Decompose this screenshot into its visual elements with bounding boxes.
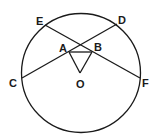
label-f: F xyxy=(142,77,149,89)
line-cd xyxy=(22,24,117,78)
geometry-diagram: E D C F A B O xyxy=(0,0,154,140)
label-a: A xyxy=(59,42,67,54)
segment-oa xyxy=(69,52,80,73)
label-b: B xyxy=(94,41,102,53)
label-o: O xyxy=(76,78,85,90)
label-e: E xyxy=(36,15,43,27)
segment-ob xyxy=(80,52,92,73)
label-c: C xyxy=(9,77,17,89)
circle xyxy=(22,14,141,133)
label-d: D xyxy=(118,14,126,26)
